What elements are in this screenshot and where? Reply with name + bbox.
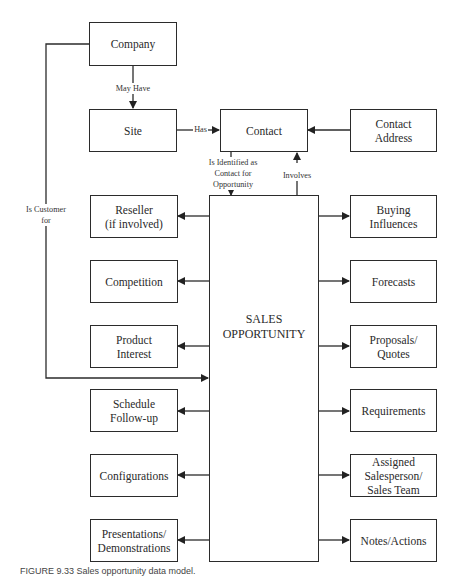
competition-entity: Competition (90, 260, 178, 303)
contact-address-label: Contact Address (375, 117, 413, 145)
proposals-quotes-label: Proposals/ Quotes (370, 333, 418, 361)
forecasts-entity: Forecasts (350, 260, 437, 303)
configurations-entity: Configurations (90, 454, 178, 497)
reseller-label: Reseller (if involved) (105, 203, 163, 231)
schedule-follow-up-entity: Schedule Follow-up (90, 389, 178, 432)
product-interest-label: Product Interest (116, 333, 152, 361)
reseller-entity: Reseller (if involved) (90, 195, 178, 238)
forecasts-label: Forecasts (372, 275, 415, 289)
schedule-follow-up-label: Schedule Follow-up (110, 397, 158, 425)
is-customer-for-label: Is Customer for (16, 204, 76, 226)
notes-actions-entity: Notes/Actions (350, 519, 437, 562)
contact-address-entity: Contact Address (350, 109, 437, 152)
contact-entity: Contact (220, 109, 308, 152)
assigned-salesperson-label: Assigned Salesperson/ Sales Team (364, 455, 422, 497)
requirements-entity: Requirements (350, 389, 437, 432)
competition-label: Competition (105, 275, 163, 289)
company-label: Company (111, 37, 156, 51)
product-interest-entity: Product Interest (90, 325, 178, 368)
assigned-salesperson-entity: Assigned Salesperson/ Sales Team (350, 454, 437, 497)
sales-opportunity-entity: SALES OPPORTUNITY (209, 195, 319, 562)
requirements-label: Requirements (362, 404, 426, 418)
presentations-entity: Presentations/ Demonstrations (90, 519, 178, 562)
buying-influences-label: Buying Influences (370, 203, 418, 231)
presentations-label: Presentations/ Demonstrations (98, 527, 171, 555)
buying-influences-entity: Buying Influences (350, 195, 437, 238)
contact-label: Contact (246, 124, 282, 138)
has-label: Has (193, 124, 208, 135)
site-entity: Site (89, 109, 177, 152)
sales-opportunity-label: SALES OPPORTUNITY (223, 312, 306, 342)
configurations-label: Configurations (100, 469, 169, 483)
involves-label: Involves (276, 170, 318, 181)
may-have-label: May Have (110, 83, 156, 94)
figure-caption: FIGURE 9.33 Sales opportunity data model… (20, 566, 196, 576)
company-entity: Company (89, 22, 177, 66)
site-label: Site (124, 124, 142, 138)
notes-actions-label: Notes/Actions (361, 534, 427, 548)
is-identified-label: Is Identified as Contact for Opportunity (196, 157, 270, 190)
proposals-quotes-entity: Proposals/ Quotes (350, 325, 437, 368)
